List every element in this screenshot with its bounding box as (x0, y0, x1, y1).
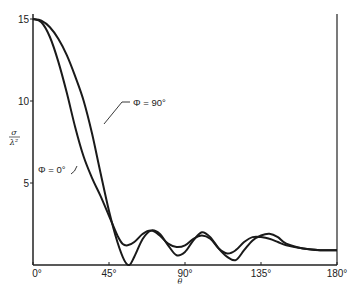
annotation-phi-90: Φ = 90° (104, 97, 166, 124)
annotation-phi-0: Φ = 0° (38, 164, 77, 175)
y-tick-label: 15 (18, 14, 30, 25)
x-tick-label: 45° (101, 268, 116, 279)
svg-text:Φ = 90°: Φ = 90° (133, 97, 166, 108)
svg-text:σ: σ (11, 128, 17, 137)
y-tick-label: 5 (23, 178, 29, 189)
chart: 0°45°90°135°180° 51015 θ σ λ² Φ = 90° Φ … (0, 0, 359, 288)
series-layer (33, 19, 337, 265)
y-axis-label: σ λ² (9, 128, 20, 147)
svg-text:λ²: λ² (9, 138, 18, 147)
y-ticks: 51015 (18, 14, 33, 189)
y-tick-label: 10 (18, 96, 30, 107)
svg-text:Φ = 0°: Φ = 0° (38, 164, 66, 175)
x-axis-label: θ (178, 277, 183, 286)
x-tick-label: 135° (251, 268, 272, 279)
x-tick-label: 0° (32, 268, 42, 279)
x-tick-label: 180° (327, 268, 348, 279)
series-phi-0-line (33, 19, 337, 254)
